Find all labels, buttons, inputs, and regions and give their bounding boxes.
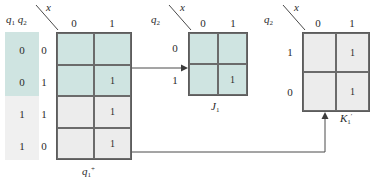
connector-layer [0,0,376,193]
arrow-q1next-to-j1 [132,65,188,72]
figure-canvas: q1 q2 x 0 1 0 0 1 1 0 1 1 0 1 1 1 q1+ q2 [0,0,376,193]
arrow-q1next-to-k1prime [132,112,329,152]
